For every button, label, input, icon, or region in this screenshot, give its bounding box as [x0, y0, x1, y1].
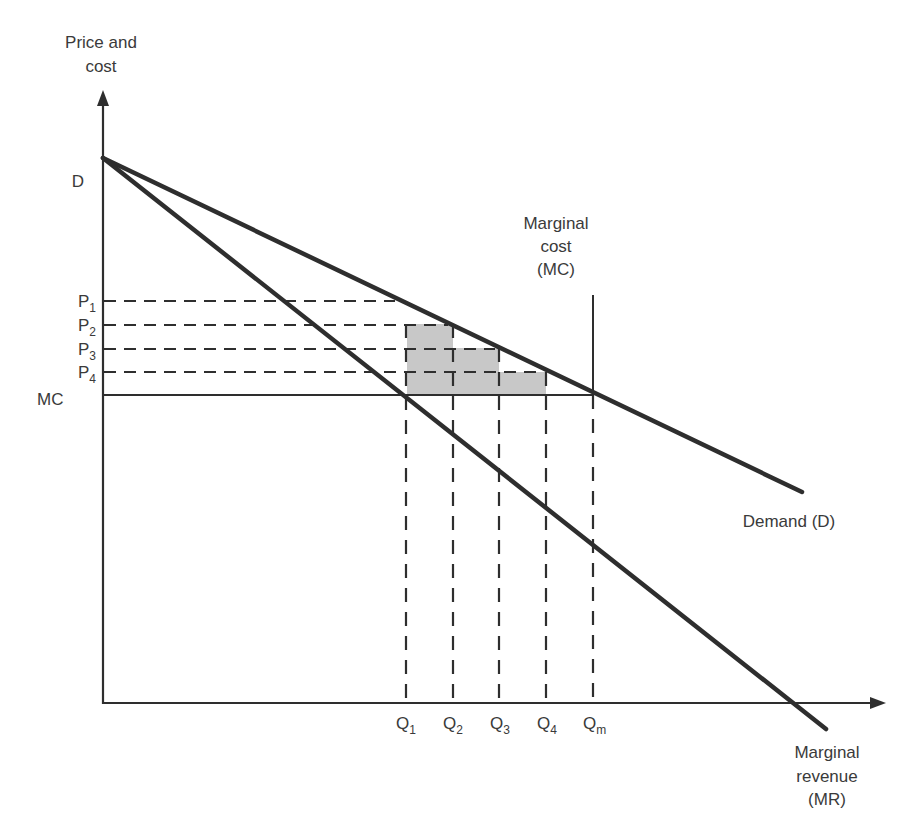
q4-tick-label: Q4 [537, 714, 557, 737]
y-axis-title-line2: cost [85, 57, 116, 76]
mc-annotation-line2: cost [540, 237, 571, 256]
x-axis-arrow-icon [870, 697, 886, 709]
mr-annotation-line3: (MR) [808, 790, 846, 809]
axes [102, 100, 876, 704]
y-axis-title-line1: Price and [65, 33, 137, 52]
p1-tick-label: P1 [78, 292, 96, 315]
mr-annotation-line1: Marginal [794, 743, 859, 762]
demand-annotation: Demand (D) [743, 512, 836, 531]
p2-tick-label: P2 [78, 316, 96, 339]
mc-annotation-line3: (MC) [537, 260, 575, 279]
marginal-revenue-line [103, 158, 826, 729]
qm-tick-label: Qm [583, 714, 606, 737]
q2-tick-label: Q2 [443, 714, 463, 737]
d-tick-label: D [72, 172, 84, 191]
price-discrimination-diagram: Price and cost D P1 P2 P3 P4 MC Q1 Q2 Q3… [0, 0, 917, 837]
y-axis-arrow-icon [97, 90, 109, 106]
p4-tick-label: P4 [78, 363, 96, 386]
mc-annotation-line1: Marginal [523, 214, 588, 233]
mr-annotation-line2: revenue [796, 767, 857, 786]
mc-tick-label: MC [37, 390, 63, 409]
p3-tick-label: P3 [78, 340, 96, 363]
q3-tick-label: Q3 [490, 714, 510, 737]
q1-tick-label: Q1 [396, 714, 416, 737]
